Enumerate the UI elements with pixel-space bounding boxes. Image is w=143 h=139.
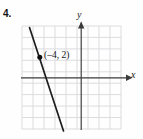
point-coordinate-label: (–4, 2) <box>44 50 69 60</box>
y-axis-label: y <box>77 10 81 20</box>
coordinate-plane-svg <box>0 0 143 139</box>
marked-point <box>37 55 42 60</box>
x-axis-label: x <box>131 70 135 80</box>
coordinate-plane-figure <box>0 0 143 139</box>
exercise-figure-root: 4. <box>0 0 143 139</box>
graphed-line <box>30 28 64 132</box>
